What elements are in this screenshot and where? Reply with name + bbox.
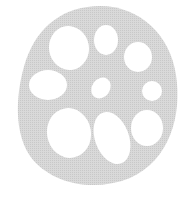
lotus-root-illustration — [0, 0, 195, 198]
lotus-hole — [142, 81, 162, 101]
lotus-hole — [94, 25, 118, 55]
lotus-hole — [131, 110, 163, 146]
lotus-hole — [124, 42, 152, 72]
lotus-hole — [29, 70, 67, 100]
